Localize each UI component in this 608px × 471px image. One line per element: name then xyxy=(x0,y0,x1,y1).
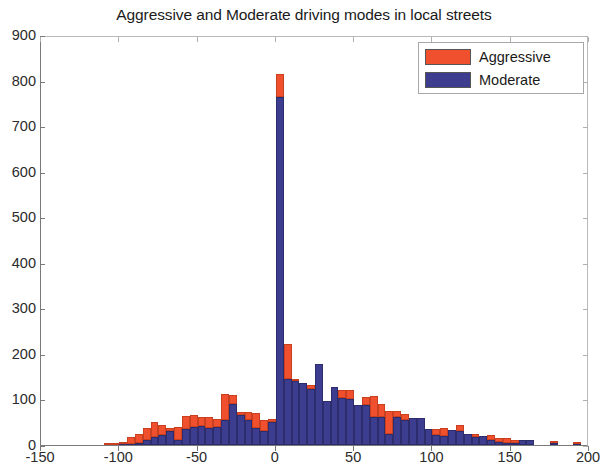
legend-label-moderate: Moderate xyxy=(479,72,540,88)
histogram-bar xyxy=(362,397,370,445)
histogram-bar xyxy=(440,428,448,445)
bar-segment-aggressive xyxy=(190,415,198,426)
bar-segment-moderate xyxy=(268,422,276,445)
bar-segment-moderate xyxy=(307,389,315,445)
y-axis-tick-label: 700 xyxy=(0,118,36,134)
bar-segment-moderate xyxy=(190,427,198,445)
histogram-bar xyxy=(127,437,135,445)
bar-segment-aggressive xyxy=(237,412,245,416)
y-axis-tick-label: 900 xyxy=(0,27,36,43)
plot-area xyxy=(40,36,588,446)
bar-segment-moderate xyxy=(519,440,527,445)
histogram-bar xyxy=(573,443,581,445)
bar-segment-aggressive xyxy=(432,429,440,435)
histogram-bar xyxy=(315,364,323,445)
bar-segment-moderate xyxy=(472,437,480,445)
bar-segment-moderate xyxy=(401,420,409,446)
histogram-bar xyxy=(495,438,503,445)
x-axis-tick xyxy=(431,446,432,451)
bar-segment-moderate xyxy=(550,443,558,445)
histogram-bar xyxy=(432,429,440,445)
histogram-bar xyxy=(213,419,221,445)
histogram-bar xyxy=(370,396,378,445)
bar-segment-aggressive xyxy=(166,428,174,431)
bar-segment-moderate xyxy=(323,401,331,445)
histogram-bar xyxy=(354,405,362,445)
histogram-bar xyxy=(104,444,112,445)
bar-segment-moderate xyxy=(198,426,206,445)
bar-segment-aggressive xyxy=(104,443,112,445)
bar-segment-moderate xyxy=(299,383,307,445)
histogram-bar xyxy=(479,436,487,445)
bar-segment-moderate xyxy=(205,428,213,445)
histogram-bar xyxy=(472,434,480,445)
legend-item-aggressive: Aggressive xyxy=(425,47,551,67)
bar-segment-moderate xyxy=(370,417,378,445)
histogram-bar xyxy=(425,429,433,445)
histogram-bar xyxy=(487,435,495,445)
x-axis-tick xyxy=(588,446,589,451)
bar-segment-aggressive xyxy=(338,390,346,397)
legend-item-moderate: Moderate xyxy=(425,70,540,90)
bar-segment-aggressive xyxy=(292,379,300,382)
x-axis-tick xyxy=(275,446,276,451)
x-axis-tick xyxy=(353,446,354,451)
histogram-bar xyxy=(448,430,456,445)
histogram-bar xyxy=(268,419,276,445)
bar-segment-aggressive xyxy=(268,419,276,423)
histogram-bar xyxy=(331,387,339,445)
bar-segment-aggressive xyxy=(182,416,190,429)
bar-segment-aggressive xyxy=(221,394,229,419)
bar-segment-moderate xyxy=(354,405,362,445)
bar-segment-moderate xyxy=(448,430,456,445)
bar-segment-aggressive xyxy=(573,442,581,444)
histogram-bar xyxy=(323,401,331,445)
histogram-bar xyxy=(519,440,527,445)
bar-segment-moderate xyxy=(456,431,464,445)
histogram-bar xyxy=(307,385,315,445)
bar-segment-moderate xyxy=(487,440,495,445)
bar-segment-aggressive xyxy=(260,420,268,432)
bar-segment-moderate xyxy=(143,440,151,445)
y-axis-tick-label: 800 xyxy=(0,73,36,89)
histogram-bar xyxy=(221,394,229,445)
bar-segment-moderate xyxy=(425,429,433,445)
histogram-bar xyxy=(143,428,151,445)
bar-segment-moderate xyxy=(276,97,284,446)
histogram-bar xyxy=(158,425,166,446)
bar-segment-moderate xyxy=(315,364,323,445)
bar-segment-moderate xyxy=(417,418,425,445)
histogram-bar xyxy=(276,74,284,445)
bar-segment-aggressive xyxy=(174,427,182,441)
bar-segment-aggressive xyxy=(276,74,284,97)
bar-segment-moderate xyxy=(292,381,300,445)
bar-segment-aggressive xyxy=(393,411,401,416)
bar-segment-moderate xyxy=(245,420,253,445)
bar-segment-moderate xyxy=(479,436,487,445)
histogram-bar xyxy=(299,383,307,445)
y-axis-tick-label: 100 xyxy=(0,391,36,407)
bar-segment-aggressive xyxy=(550,441,558,443)
x-axis-tick-label: 200 xyxy=(558,449,608,465)
bar-segment-moderate xyxy=(252,428,260,445)
bar-segment-aggressive xyxy=(440,428,448,436)
bar-segment-moderate xyxy=(362,405,370,445)
bar-segment-aggressive xyxy=(385,411,393,434)
histogram-bar xyxy=(393,411,401,445)
y-axis-tick-label: 200 xyxy=(0,346,36,362)
bar-series-container xyxy=(41,37,587,445)
x-axis-tick-label: -150 xyxy=(10,449,70,465)
bar-segment-aggressive xyxy=(229,395,237,404)
legend-swatch-moderate xyxy=(425,72,471,88)
bar-segment-aggressive xyxy=(307,385,315,390)
x-axis-tick-mirror xyxy=(275,37,276,42)
legend: Aggressive Moderate xyxy=(418,42,584,94)
histogram-bar xyxy=(503,438,511,445)
histogram-bar xyxy=(182,416,190,445)
figure-canvas: Aggressive and Moderate driving modes in… xyxy=(0,0,608,471)
bar-segment-moderate xyxy=(432,435,440,445)
x-axis-tick xyxy=(510,446,511,451)
bar-segment-aggressive xyxy=(151,422,159,437)
histogram-bar xyxy=(346,390,354,445)
x-axis-tick-label: 150 xyxy=(480,449,540,465)
